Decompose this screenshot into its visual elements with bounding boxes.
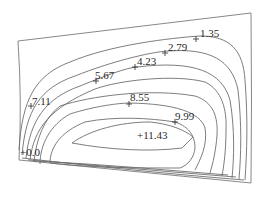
svg-text:9.99: 9.99 <box>175 110 195 122</box>
svg-text:8.55: 8.55 <box>130 91 150 103</box>
label-2.79: 2.79 <box>162 41 188 56</box>
label-8.55: 8.55 <box>126 91 150 107</box>
svg-text:7.11: 7.11 <box>32 95 51 107</box>
label-7.11: 7.11 <box>28 95 51 109</box>
contour-5.67 <box>30 78 226 176</box>
contour-4.23 <box>26 65 234 178</box>
label-1.35: 1.35 <box>193 27 220 42</box>
label-0.0: +0.0 <box>20 146 40 158</box>
svg-text:2.79: 2.79 <box>168 41 188 53</box>
svg-text:4.23: 4.23 <box>137 55 157 67</box>
label-5.67: 5.67 <box>93 69 115 84</box>
contour-plot: 1.35 2.79 4.23 5.67 7.11 8.55 9.99 +11.4… <box>0 0 269 198</box>
contour-11.43 <box>72 122 193 150</box>
svg-text:1.35: 1.35 <box>200 27 220 39</box>
label-9.99: 9.99 <box>172 110 195 125</box>
label-4.23: 4.23 <box>132 55 157 70</box>
label-11.43: +11.43 <box>137 129 168 141</box>
svg-text:5.67: 5.67 <box>95 69 115 81</box>
